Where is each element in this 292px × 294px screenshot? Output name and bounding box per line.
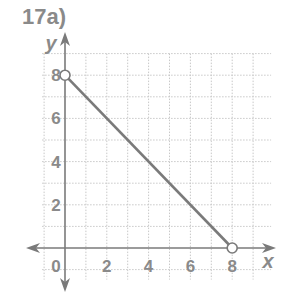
y-tick-label: 2 <box>51 196 60 215</box>
y-tick-label: 4 <box>51 153 61 172</box>
x-axis-label: x <box>261 250 274 272</box>
x-tick-label: 4 <box>144 257 154 276</box>
y-tick-label: 6 <box>51 109 60 128</box>
x-tick-label: 8 <box>227 257 236 276</box>
tick-labels: 024682468xy <box>44 32 274 276</box>
y-axis-label: y <box>44 32 57 54</box>
x-tick-label: 6 <box>186 257 195 276</box>
open-endpoint-circle <box>227 243 237 253</box>
x-tick-label: 2 <box>102 257 111 276</box>
x-tick-label: 0 <box>51 257 60 276</box>
coordinate-plane: 024682468xy <box>0 0 292 294</box>
open-endpoint-circle <box>60 70 70 80</box>
